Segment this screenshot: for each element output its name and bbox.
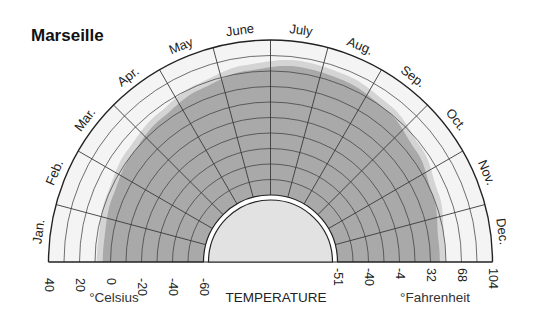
celsius-tick: -60 [197,278,211,296]
fahrenheit-tick: -40 [362,268,376,286]
radial-temperature-chart: Jan.Feb.Mar.Apr.MayJuneJulyAug.Sep.Oct.N… [0,0,541,325]
celsius-axis-label: °Celsius [89,290,139,305]
fahrenheit-tick: -51 [331,268,345,286]
month-label: May [167,34,196,57]
fahrenheit-tick: 32 [424,268,438,282]
month-label: July [289,21,314,39]
fahrenheit-axis-label: °Fahrenheit [400,290,470,305]
fahrenheit-tick: 104 [486,268,500,289]
celsius-tick: 20 [73,278,87,292]
fahrenheit-tick: -4 [393,268,407,279]
fahrenheit-tick: 68 [455,268,469,282]
celsius-tick: 0 [104,278,118,285]
celsius-tick: 40 [42,278,56,292]
temperature-axis-label: TEMPERATURE [225,290,326,305]
celsius-tick: -40 [166,278,180,296]
month-label: Dec. [493,217,511,245]
month-label: June [225,21,255,40]
month-label: Jan. [29,218,47,244]
